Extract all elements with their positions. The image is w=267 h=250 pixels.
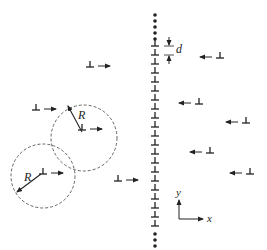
coordinate-axes: y x [175, 186, 212, 224]
wall-dislocation [151, 85, 159, 91]
continuation-dot [153, 37, 157, 41]
mobile-dislocation-right [114, 175, 138, 181]
continuation-dot [153, 25, 157, 29]
mobile-dislocation-right [32, 104, 56, 110]
wall-dislocation [151, 67, 159, 73]
spacing-annotation: d [164, 37, 183, 64]
edge-dislocation-symbol [39, 168, 47, 174]
wall-dislocation [151, 103, 159, 109]
mobile-dislocations [32, 52, 254, 181]
wall-dislocation [151, 58, 159, 64]
continuation-dot [153, 13, 157, 17]
spacing-label-d: d [176, 42, 183, 56]
capture-circle [11, 144, 75, 208]
wall-dislocation [151, 157, 159, 163]
mobile-dislocation-left [226, 117, 250, 123]
mobile-dislocation-left [190, 147, 214, 153]
y-axis-label: y [175, 186, 181, 198]
wall-dislocation [151, 121, 159, 127]
wall-dislocation [151, 175, 159, 181]
wall-dislocation [151, 193, 159, 199]
wall-dislocation [151, 139, 159, 145]
wall-dislocation [151, 184, 159, 190]
continuation-dot [153, 31, 157, 35]
wall-dislocation [151, 202, 159, 208]
wall-dislocation [151, 220, 159, 226]
edge-dislocation-symbol [114, 175, 122, 181]
dislocation-wall-diagram: RR d y x [0, 0, 267, 250]
wall-dislocation [151, 94, 159, 100]
edge-dislocation-symbol [86, 61, 94, 67]
mobile-dislocation-left [179, 98, 203, 104]
mobile-dislocation-right [39, 168, 63, 174]
wall-dislocation [151, 112, 159, 118]
radius-label: R [77, 108, 86, 122]
mobile-dislocation-left [230, 168, 254, 174]
continuation-dot [153, 238, 157, 242]
wall-dislocation [151, 148, 159, 154]
wall-dislocation [151, 40, 159, 46]
dislocation-wall [151, 13, 159, 248]
diagram-canvas: RR d y x [0, 0, 267, 250]
mobile-dislocation-right [86, 61, 110, 67]
x-axis-label: x [206, 212, 212, 224]
edge-dislocation-symbol [32, 104, 40, 110]
radius-label: R [23, 170, 32, 184]
wall-dislocation [151, 211, 159, 217]
wall-dislocation [151, 76, 159, 82]
continuation-dot [153, 244, 157, 248]
mobile-dislocation-left [200, 52, 224, 58]
edge-dislocation-symbol [216, 52, 224, 58]
edge-dislocation-symbol [206, 147, 214, 153]
wall-dislocation [151, 49, 159, 55]
edge-dislocation-symbol [246, 168, 254, 174]
edge-dislocation-symbol [195, 98, 203, 104]
wall-dislocation [151, 166, 159, 172]
interaction-circles: RR [11, 105, 117, 208]
continuation-dot [153, 232, 157, 236]
wall-dislocation [151, 130, 159, 136]
edge-dislocation-symbol [242, 117, 250, 123]
mobile-dislocation-right [78, 124, 102, 130]
continuation-dot [153, 19, 157, 23]
